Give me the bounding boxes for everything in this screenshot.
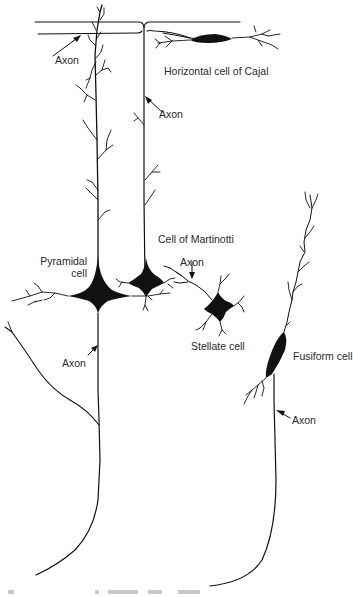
label-pyramidal-line2: cell (37, 267, 87, 279)
neuron-drawing (0, 0, 353, 597)
label-pyramidal-line1: Pyramidal (37, 255, 87, 267)
label-horizontal-cell-of-cajal: Horizontal cell of Cajal (164, 65, 268, 77)
caption-fragment (0, 588, 353, 597)
fusiform-axon (210, 374, 276, 586)
arrows (53, 35, 290, 418)
martinotti-axon (144, 27, 146, 290)
label-axon-pyramidal: Axon (62, 357, 86, 369)
label-fusiform-cell: Fusiform cell (293, 350, 353, 362)
label-axon-stellate: Axon (180, 256, 204, 268)
label-cell-of-martinotti: Cell of Martinotti (158, 233, 234, 245)
horizontal-cell-of-cajal (155, 26, 280, 49)
label-pyramidal-cell: Pyramidal cell (37, 255, 87, 279)
pyramidal-axon-collateral (5, 327, 99, 425)
stellate-axon (164, 266, 212, 300)
stellate-cell (164, 266, 244, 336)
label-axon-martinotti: Axon (159, 108, 183, 120)
label-axon-fusiform: Axon (292, 414, 316, 426)
neuron-diagram: Axon Horizontal cell of Cajal Axon Cell … (0, 0, 353, 597)
cell-of-martinotti (116, 258, 175, 311)
martinotti-axon-twig (145, 165, 160, 205)
martinotti-axon-branch (134, 113, 144, 125)
fusiform-cell (210, 192, 318, 586)
label-stellate-cell: Stellate cell (191, 340, 245, 352)
label-axon-top-left: Axon (55, 54, 79, 66)
pyramidal-apical-dendrite (95, 5, 102, 280)
